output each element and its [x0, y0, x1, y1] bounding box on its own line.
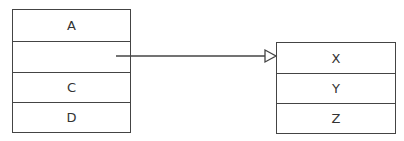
- reference-arrow: [0, 0, 404, 141]
- hollow-triangle-arrowhead-icon: [265, 50, 276, 62]
